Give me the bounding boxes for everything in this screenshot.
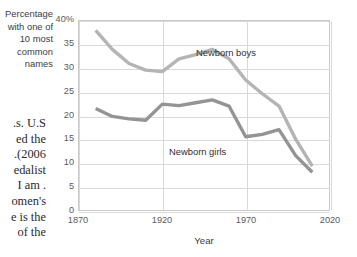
gridline-vertical xyxy=(331,21,332,210)
x-axis-tick-label: 1970 xyxy=(221,215,271,225)
x-axis-title: Year xyxy=(78,235,330,246)
x-axis-tick-label: 1870 xyxy=(53,215,103,225)
series-label-newborn-girls: Newborn girls xyxy=(169,146,226,157)
series-label-newborn-boys: Newborn boys xyxy=(196,47,256,58)
y-axis-tick-label: 0 xyxy=(40,205,74,215)
y-axis-tick-label: 5 xyxy=(40,181,74,191)
y-axis-tick-label: 30 xyxy=(40,62,74,72)
y-axis-tick-label: 35 xyxy=(40,38,74,48)
x-axis-tick-label: 1920 xyxy=(137,215,187,225)
y-axis-tick-label: 15 xyxy=(40,133,74,143)
plot-area: Newborn boys Newborn girls xyxy=(78,20,330,211)
body-text-line: of the xyxy=(0,225,46,241)
y-axis-tick-label: 25 xyxy=(40,86,74,96)
y-axis-tick-label: 20 xyxy=(40,110,74,120)
gridline-horizontal xyxy=(79,212,329,213)
x-axis-tick-label: 2020 xyxy=(305,215,355,225)
y-axis-tick-label: 10 xyxy=(40,157,74,167)
y-axis-tick-label: 40% xyxy=(40,14,74,24)
figure-page: s. U.S. ed the 2006). edalist . I am ome… xyxy=(0,0,357,257)
